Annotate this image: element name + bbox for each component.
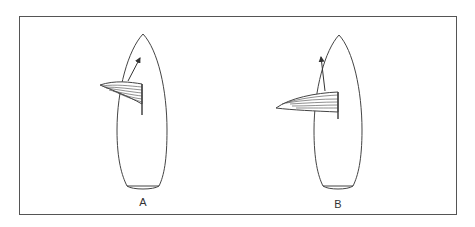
panel-label-b: B bbox=[334, 198, 341, 210]
boat-a bbox=[100, 34, 167, 189]
boat-b bbox=[276, 35, 362, 189]
panel-label-a: A bbox=[139, 196, 146, 208]
sailboat-diagram bbox=[0, 0, 475, 227]
